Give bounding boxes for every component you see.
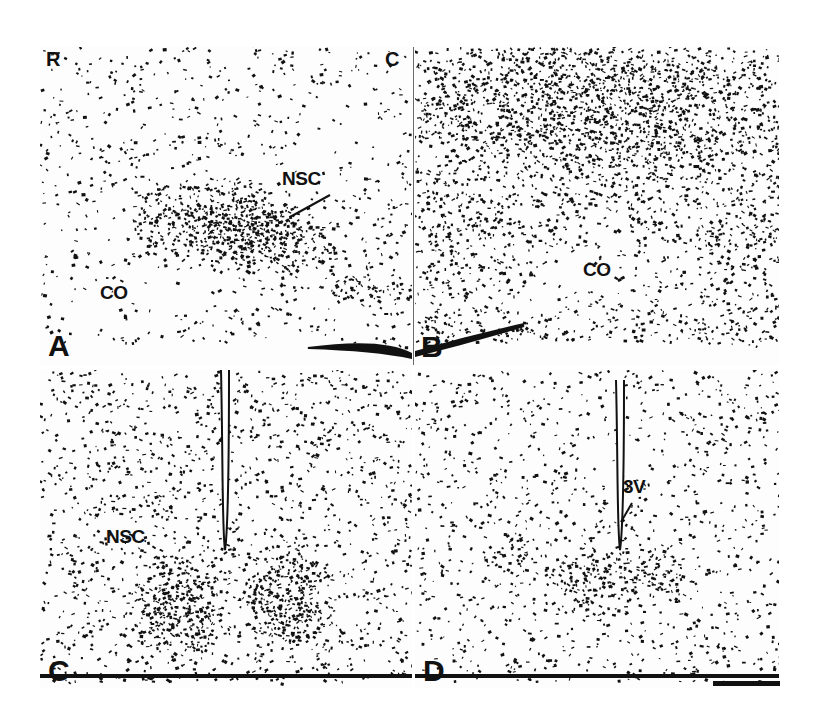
orientation-rostral: R: [46, 49, 60, 69]
panel-d-micrograph: 3VD: [415, 370, 779, 688]
structure-nsc: NSC: [106, 527, 145, 546]
structure-co: CO: [583, 260, 611, 279]
panel-b-micrograph: COB: [415, 47, 779, 365]
scale-bar: [713, 681, 780, 686]
structure-nsc: NSC: [282, 169, 321, 188]
panel-divider: [413, 47, 414, 365]
label-pointer-line: [290, 195, 330, 217]
panel-letter-d: D: [423, 656, 445, 686]
panel-letter-c: C: [48, 656, 70, 686]
figure: RCNSCCOA COB NSCC 3VD: [0, 0, 818, 719]
tissue-texture: [40, 47, 412, 365]
orientation-caudal: C: [385, 49, 399, 69]
panel-letter-b: B: [421, 332, 443, 362]
panel-c-micrograph: NSCC: [40, 370, 412, 688]
panel-a-micrograph: RCNSCCOA: [40, 47, 412, 365]
tissue-texture: [415, 47, 779, 365]
structure-co: CO: [100, 283, 128, 302]
tissue-texture: [415, 370, 779, 688]
panel-letter-a: A: [48, 331, 70, 361]
tissue-texture: [40, 370, 412, 688]
structure-3v: 3V: [623, 477, 645, 496]
